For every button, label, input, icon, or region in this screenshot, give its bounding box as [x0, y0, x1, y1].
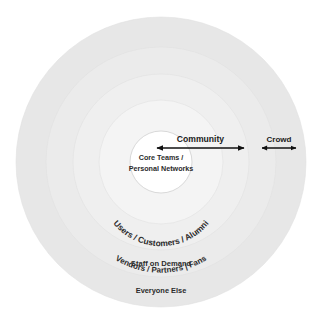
core-label-line-1: Core Teams / — [139, 153, 184, 162]
ring-label-everyone-else: Everyone Else — [136, 286, 187, 295]
community-arrow-label: Community — [177, 134, 224, 144]
ring-label-staff-on-demand: Staff on Demand — [131, 259, 192, 268]
diagram-canvas: COMMUNITY AND THE CROWD COMMUNITY & CROW… — [0, 0, 313, 317]
concentric-rings-diagram: COMMUNITY AND THE CROWD COMMUNITY & CROW… — [0, 0, 313, 317]
crowd-arrow-label: Crowd — [267, 135, 292, 144]
core-label-line-2: Personal Networks — [129, 164, 194, 173]
